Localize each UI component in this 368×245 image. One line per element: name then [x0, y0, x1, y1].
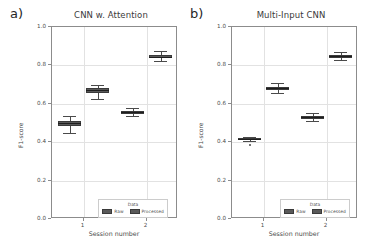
- panel-a-ylabel: F1-score: [17, 122, 24, 148]
- legend-entry: Processed: [312, 209, 346, 214]
- whisker-cap-lower: [154, 61, 168, 62]
- y-tick-mark: [228, 26, 231, 27]
- gridline-y: [232, 104, 356, 105]
- legend: DataRawProcessed: [280, 199, 350, 218]
- whisker-cap-upper: [334, 52, 348, 53]
- x-tick-mark: [326, 218, 327, 221]
- figure: a) CNN w. Attention F1-score Session num…: [0, 0, 368, 245]
- boxplot-median: [266, 88, 289, 89]
- boxplot-median: [86, 90, 109, 91]
- y-tick-mark: [228, 218, 231, 219]
- y-tick-mark: [48, 64, 51, 65]
- gridline-x: [264, 27, 265, 217]
- boxplot-median: [121, 112, 144, 113]
- y-tick-label: 0.8: [26, 61, 46, 67]
- gridline-x: [327, 27, 328, 217]
- whisker-cap-lower: [271, 93, 285, 94]
- legend: DataRawProcessed: [98, 199, 168, 218]
- whisker-cap-lower: [243, 141, 257, 142]
- y-tick-label: 0.0: [26, 215, 46, 221]
- legend-entry: Raw: [102, 209, 123, 214]
- gridline-y: [232, 142, 356, 143]
- gridline-y: [52, 181, 176, 182]
- legend-swatch: [130, 209, 140, 214]
- legend-label: Raw: [296, 209, 305, 214]
- boxplot-median: [238, 139, 261, 140]
- legend-items: RawProcessed: [102, 209, 164, 214]
- legend-items: RawProcessed: [284, 209, 346, 214]
- boxplot-median: [329, 56, 352, 57]
- whisker-cap-lower: [334, 60, 348, 61]
- y-tick-mark: [48, 103, 51, 104]
- whisker-cap-lower: [63, 133, 77, 134]
- panel-b-ylabel: F1-score: [197, 122, 204, 148]
- gridline-y: [232, 65, 356, 66]
- y-tick-mark: [48, 26, 51, 27]
- whisker-cap-lower: [126, 116, 140, 117]
- y-tick-label: 0.4: [26, 138, 46, 144]
- y-tick-mark: [228, 64, 231, 65]
- y-tick-mark: [228, 103, 231, 104]
- whisker-cap-upper: [63, 116, 77, 117]
- y-tick-mark: [48, 141, 51, 142]
- panel-a-label: a): [10, 6, 23, 21]
- y-tick-mark: [228, 180, 231, 181]
- gridline-x: [84, 27, 85, 217]
- boxplot-median: [58, 123, 81, 124]
- whisker-cap-upper: [154, 51, 168, 52]
- legend-title: Data: [102, 202, 164, 207]
- legend-title: Data: [284, 202, 346, 207]
- gridline-y: [232, 181, 356, 182]
- x-tick-label: 1: [253, 222, 273, 228]
- panel-a: a) CNN w. Attention F1-score Session num…: [0, 0, 184, 245]
- legend-label: Processed: [142, 209, 164, 214]
- legend-label: Raw: [114, 209, 123, 214]
- x-tick-mark: [146, 218, 147, 221]
- panel-b-title: Multi-Input CNN: [228, 10, 354, 20]
- panel-b-plot-area: [231, 26, 357, 218]
- whisker-cap-lower: [306, 121, 320, 122]
- y-tick-mark: [48, 218, 51, 219]
- y-tick-label: 1.0: [26, 23, 46, 29]
- y-tick-label: 0.2: [26, 177, 46, 183]
- panel-b-label: b): [190, 6, 203, 21]
- panel-b: b) Multi-Input CNN F1-score Session numb…: [184, 0, 368, 245]
- legend-entry: Raw: [284, 209, 305, 214]
- y-tick-label: 0.0: [206, 215, 226, 221]
- boxplot-median: [301, 117, 324, 118]
- whisker-cap-lower: [91, 99, 105, 100]
- y-tick-label: 0.8: [206, 61, 226, 67]
- panel-b-xlabel: Session number: [231, 230, 357, 237]
- legend-swatch: [102, 209, 112, 214]
- panel-a-title: CNN w. Attention: [48, 10, 174, 20]
- boxplot-median: [149, 57, 172, 58]
- legend-swatch: [284, 209, 294, 214]
- gridline-x: [147, 27, 148, 217]
- x-tick-label: 1: [73, 222, 93, 228]
- gridline-y: [52, 142, 176, 143]
- gridline-y: [52, 65, 176, 66]
- panel-a-plot-area: [51, 26, 177, 218]
- y-tick-label: 1.0: [206, 23, 226, 29]
- panel-a-xlabel: Session number: [51, 230, 177, 237]
- x-tick-mark: [263, 218, 264, 221]
- whisker-cap-upper: [306, 113, 320, 114]
- y-tick-label: 0.4: [206, 138, 226, 144]
- legend-entry: Processed: [130, 209, 164, 214]
- x-tick-label: 2: [316, 222, 336, 228]
- whisker-cap-upper: [271, 83, 285, 84]
- whisker-cap-upper: [126, 108, 140, 109]
- legend-label: Processed: [324, 209, 346, 214]
- boxplot-outlier: [249, 144, 251, 146]
- gridline-y: [52, 104, 176, 105]
- y-tick-label: 0.2: [206, 177, 226, 183]
- x-tick-label: 2: [136, 222, 156, 228]
- legend-swatch: [312, 209, 322, 214]
- x-tick-mark: [83, 218, 84, 221]
- y-tick-label: 0.6: [206, 100, 226, 106]
- y-tick-mark: [48, 180, 51, 181]
- whisker-cap-upper: [91, 85, 105, 86]
- y-tick-mark: [228, 141, 231, 142]
- y-tick-label: 0.6: [26, 100, 46, 106]
